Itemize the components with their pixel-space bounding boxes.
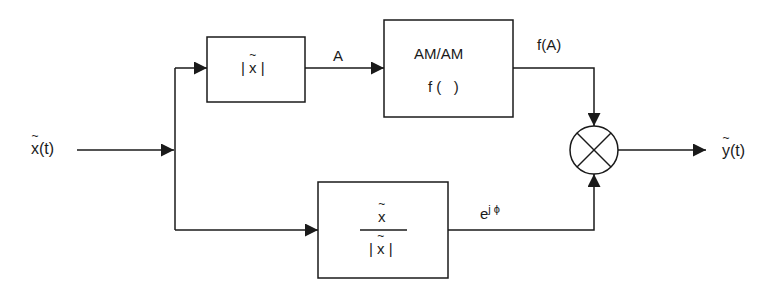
amplitude-label: A xyxy=(333,47,343,64)
amam-function: f ( ) xyxy=(428,78,459,95)
normalize-numerator: x xyxy=(378,208,386,225)
am-output-label: f(A) xyxy=(537,36,561,53)
phase-line xyxy=(448,174,594,230)
amam-title: AM/AM xyxy=(414,45,463,62)
amam-block xyxy=(384,20,513,117)
input-label: x(t) xyxy=(31,140,54,158)
output-label: y(t) xyxy=(722,142,745,160)
am-output-line xyxy=(513,68,594,126)
normalize-denominator: | x | xyxy=(369,240,393,257)
phase-label: ej ϕ xyxy=(480,203,500,222)
magnitude-label: | x | xyxy=(241,59,265,76)
